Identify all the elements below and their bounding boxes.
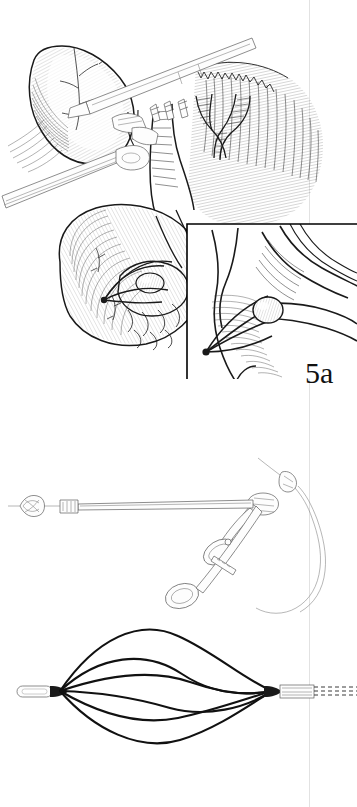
common-duct-hatching — [151, 111, 178, 187]
illustration-5b — [0, 400, 357, 807]
basket-proximal-sheath — [280, 685, 357, 698]
sliding-collar[interactable] — [60, 500, 78, 513]
panel-5a: 5a — [0, 0, 357, 400]
panel-label-5a: 5a — [305, 358, 333, 388]
panel-5b: 5b — [0, 400, 357, 807]
catheter-shaft — [38, 500, 253, 513]
illustration-5a — [0, 0, 357, 400]
duodenum — [59, 205, 204, 346]
basket-wire-set — [60, 630, 272, 744]
basket-closed — [8, 495, 45, 516]
guidewire — [256, 458, 326, 613]
ring-handle-forceps[interactable] — [162, 493, 278, 613]
basket-distal-tip — [17, 686, 52, 697]
dormia-basket-expanded — [17, 630, 357, 744]
figure-page: 5a — [0, 0, 357, 807]
